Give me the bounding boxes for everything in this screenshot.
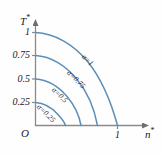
y-axis-star: * [26,13,30,22]
y-axis-label: T* [20,14,30,27]
y-tick-label-05: 0.5 [0,74,30,84]
x-axis-label: n* [145,127,155,140]
curve-alpha-05 [36,79,82,126]
figure-container: T* n* O 1 0.75 0.5 0.25 1 α=1 α=0.75 α=0… [0,0,163,156]
x-tick-label-1: 1 [115,130,120,140]
y-tick-label-075: 0.75 [0,50,30,60]
y-tick-label-1: 1 [0,27,30,37]
origin-label: O [21,128,29,139]
y-tick-label-025: 0.25 [0,97,30,107]
x-axis-star: * [151,126,155,135]
